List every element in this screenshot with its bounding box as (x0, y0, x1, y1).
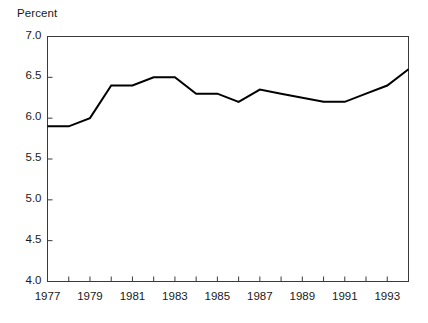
x-axis-tick-label: 1993 (365, 290, 409, 302)
x-axis-ticks (48, 277, 409, 282)
y-axis-tick-label: 7.0 (12, 29, 42, 41)
x-axis-tick-label: 1987 (238, 290, 282, 302)
y-axis-ticks (48, 37, 53, 282)
y-axis-tick-label: 5.5 (12, 151, 42, 163)
y-axis-tick-label: 5.0 (12, 192, 42, 204)
data-series-group (48, 69, 409, 126)
y-axis-tick-label: 6.0 (12, 110, 42, 122)
x-axis-tick-label: 1983 (153, 290, 197, 302)
axes-frame (48, 37, 409, 282)
x-axis-tick-label: 1989 (280, 290, 324, 302)
y-axis-tick-label: 6.5 (12, 69, 42, 81)
plot-area (0, 0, 428, 323)
plot-frame (48, 37, 409, 282)
data-line (48, 69, 409, 126)
x-axis-tick-label: 1985 (195, 290, 239, 302)
x-axis-tick-label: 1979 (68, 290, 112, 302)
x-axis-tick-label: 1991 (323, 290, 367, 302)
y-axis-tick-label: 4.5 (12, 233, 42, 245)
x-axis-tick-label: 1977 (26, 290, 70, 302)
x-axis-tick-label: 1981 (110, 290, 154, 302)
chart-container: Percent 4.04.55.05.56.06.57.0 1977197919… (0, 0, 428, 323)
y-axis-tick-label: 4.0 (12, 274, 42, 286)
